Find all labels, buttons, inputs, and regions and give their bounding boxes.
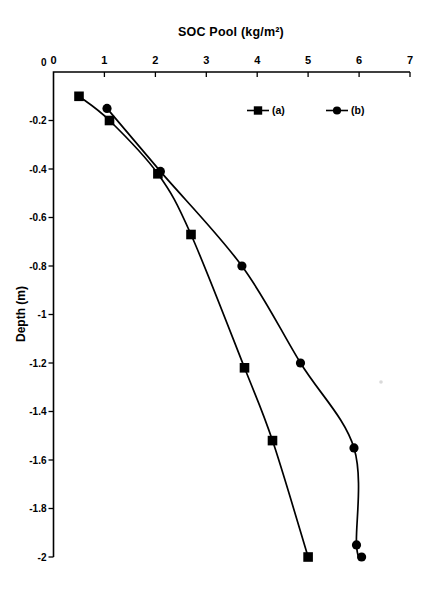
series-b-circle-marker (352, 540, 361, 549)
y-axis-tick-label: 0 (41, 57, 47, 68)
series-b-circle-marker (156, 167, 165, 176)
series-b-circle-marker (357, 552, 366, 561)
series-a-square-marker (105, 116, 115, 126)
legend-square-marker (254, 106, 262, 114)
x-axis-tick-label: 5 (305, 54, 311, 66)
series-b-line (107, 108, 362, 557)
chart-title: SOC Pool (kg/m²) (178, 25, 284, 39)
series-a-line (79, 96, 308, 557)
x-axis-tick-label: 3 (203, 54, 209, 66)
y-axis-tick-label: -1.6 (29, 455, 47, 466)
x-axis-tick-label: 1 (101, 54, 107, 66)
y-axis-tick-label: -0.4 (29, 164, 47, 175)
series-a-square-marker (186, 230, 196, 240)
chart-canvas: SOC Pool (kg/m²) Depth (m) 012345670-0.2… (0, 0, 433, 594)
x-axis-tick-label: 7 (407, 54, 413, 66)
series-b-circle-marker (296, 358, 305, 367)
y-axis-tick-label: -0.2 (29, 115, 47, 126)
legend-label: (a) (272, 104, 285, 116)
x-axis-tick-label: 4 (254, 54, 261, 66)
axis-lines (54, 72, 411, 557)
series-a-square-marker (240, 363, 250, 373)
legend-item-b: (b) (326, 104, 364, 116)
legend: (a)(b) (247, 104, 364, 116)
y-axis-tick-label: -1.8 (29, 503, 47, 514)
series-a-square-marker (268, 436, 278, 446)
series-a-square-marker (74, 92, 84, 102)
x-axis-tick-label: 2 (152, 54, 158, 66)
y-axis-tick-label: -0.8 (29, 261, 47, 272)
data-series (74, 92, 366, 562)
series-b-circle-marker (349, 443, 358, 452)
legend-label: (b) (351, 104, 364, 116)
page: SOC Pool (kg/m²) Depth (m) 012345670-0.2… (0, 0, 433, 594)
series-a-square-marker (303, 552, 313, 562)
y-axis-tick-label: -2 (38, 552, 47, 563)
series-b (102, 104, 366, 562)
scan-speck-icon (379, 380, 383, 384)
y-axis-tick-label: -1.4 (29, 406, 47, 417)
x-axis-tick-label: 0 (50, 54, 56, 66)
y-axis-title: Depth (m) (14, 286, 28, 342)
y-axis-tick-label: -1 (38, 309, 47, 320)
legend-circle-marker (333, 106, 341, 114)
series-b-circle-marker (102, 104, 111, 113)
y-axis-tick-label: -1.2 (29, 358, 47, 369)
series-a (74, 92, 313, 562)
y-axis-tick-label: -0.6 (29, 212, 47, 223)
x-axis-tick-label: 6 (356, 54, 362, 66)
series-b-circle-marker (237, 261, 246, 270)
legend-item-a: (a) (247, 104, 285, 116)
soc-depth-profile-chart: SOC Pool (kg/m²) Depth (m) 012345670-0.2… (0, 0, 433, 594)
